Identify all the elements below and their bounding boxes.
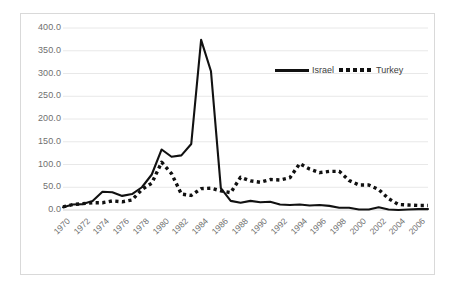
series-line-turkey xyxy=(63,162,428,207)
y-axis-tick-label: 100.0 xyxy=(21,159,61,169)
y-axis-tick-label: 150.0 xyxy=(21,136,61,146)
chart-legend: Israel Turkey xyxy=(275,65,403,75)
y-axis-tick-label: 350.0 xyxy=(21,45,61,55)
legend-swatch-dotted-icon xyxy=(339,68,373,72)
legend-entry-turkey: Turkey xyxy=(339,65,403,75)
legend-label-israel: Israel xyxy=(312,65,334,75)
y-axis-tick-label: 0.0 xyxy=(21,204,61,214)
y-axis-tick-label: 400.0 xyxy=(21,22,61,32)
legend-label-turkey: Turkey xyxy=(376,65,403,75)
gridlines-group xyxy=(63,28,428,210)
y-axis-tick-label: 50.0 xyxy=(21,181,61,191)
y-axis-tick-label: 300.0 xyxy=(21,68,61,78)
legend-swatch-solid-icon xyxy=(275,69,309,72)
chart-container: 0.050.0100.0150.0200.0250.0300.0350.0400… xyxy=(20,13,435,275)
y-axis-tick-label: 250.0 xyxy=(21,90,61,100)
legend-entry-israel: Israel xyxy=(275,65,334,75)
y-axis-tick-label: 200.0 xyxy=(21,113,61,123)
